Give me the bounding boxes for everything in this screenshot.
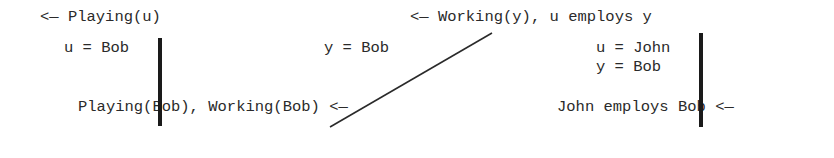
edge-working (330, 33, 492, 127)
edge-lines (0, 0, 834, 158)
